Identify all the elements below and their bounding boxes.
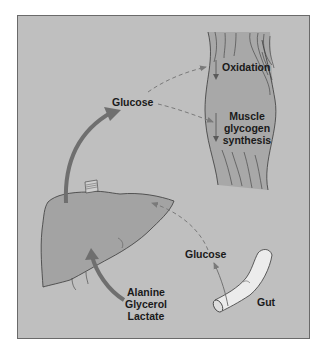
glucose-label-top: Glucose bbox=[112, 96, 153, 108]
liver-illustration bbox=[41, 180, 174, 290]
liver-vessel bbox=[85, 180, 98, 193]
precursor-alanine: Alanine bbox=[123, 286, 169, 298]
oxidation-label: Oxidation bbox=[222, 61, 270, 73]
muscle-glycogen-synthesis-label: Muscle glycogen synthesis bbox=[221, 110, 273, 146]
muscle-glycogen-line-1: Muscle bbox=[221, 110, 273, 122]
glucose-to-oxidation-arrow bbox=[148, 67, 206, 92]
muscle-glycogen-line-3: synthesis bbox=[221, 134, 273, 146]
gut-label: Gut bbox=[257, 296, 275, 308]
muscle-glycogen-line-2: glycogen bbox=[221, 122, 273, 134]
precursor-lactate: Lactate bbox=[123, 310, 169, 322]
glucose-label-gut: Glucose bbox=[185, 248, 226, 260]
precursor-glycerol: Glycerol bbox=[123, 298, 169, 310]
precursors-label: Alanine Glycerol Lactate bbox=[123, 286, 169, 322]
